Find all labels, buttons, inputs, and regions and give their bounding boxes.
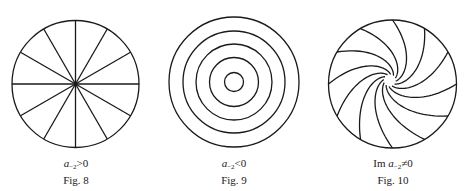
spiral-arm [389, 84, 457, 97]
fig10-spiral-diagram [329, 20, 457, 148]
fig10-label: Fig. 10 [333, 174, 453, 186]
spiral-arm [393, 20, 407, 81]
spiral-arm [337, 73, 387, 116]
spiral-arm [386, 85, 448, 116]
spiral-arm [395, 29, 425, 85]
fig8-label: Fig. 8 [16, 174, 136, 186]
fig9-label: Fig. 9 [174, 174, 294, 186]
spiral-arm [337, 51, 393, 76]
boundary-circle [329, 20, 457, 148]
concentric-circle [225, 73, 244, 92]
fig9-condition: a−2<0 [174, 157, 294, 173]
fig8-condition: a−2>0 [16, 157, 136, 173]
spiral-arm [383, 83, 425, 140]
concentric-circle [210, 58, 259, 107]
concentric-circle [169, 17, 299, 147]
concentric-circle [196, 44, 272, 120]
spiral-arm [375, 80, 392, 148]
fig8-radial-lines-diagram [12, 21, 139, 148]
fig10-condition: Im a−2≠0 [333, 157, 453, 173]
concentric-circle [183, 31, 285, 133]
fig9-concentric-circles-diagram [169, 17, 299, 147]
